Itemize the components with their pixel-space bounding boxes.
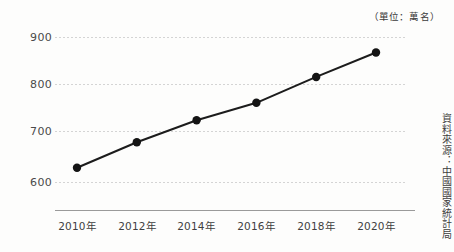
x-tick-label-2012: 2012年	[107, 218, 167, 233]
data-point-2016年	[252, 99, 260, 107]
y-tick-label-900: 900	[18, 31, 52, 44]
plot-area: 900 800 700 600 2010年 2012年 2014年 2016年 …	[0, 0, 454, 252]
x-tick-label-2020: 2020年	[346, 218, 406, 233]
source-note: 資料來源：中國國家統計局	[440, 113, 450, 248]
data-point-2020年	[372, 48, 380, 56]
data-point-2010年	[73, 164, 81, 172]
series-markers	[73, 48, 380, 172]
x-tick-label-2016: 2016年	[226, 218, 286, 233]
series-line	[77, 53, 376, 168]
gridline-900	[55, 37, 405, 38]
y-tick-label-800: 800	[18, 78, 52, 91]
data-point-2012年	[133, 138, 141, 146]
data-point-2018年	[312, 73, 320, 81]
gridline-700	[55, 131, 405, 132]
x-tick-label-2014: 2014年	[166, 218, 226, 233]
x-tick-label-2010: 2010年	[47, 218, 107, 233]
y-tick-label-600: 600	[18, 176, 52, 189]
gridline-800	[55, 84, 405, 85]
gridline-600	[55, 182, 405, 183]
y-tick-label-700: 700	[18, 125, 52, 138]
x-axis-line	[55, 210, 415, 211]
x-tick-label-2018: 2018年	[286, 218, 346, 233]
data-point-2014年	[192, 116, 200, 124]
